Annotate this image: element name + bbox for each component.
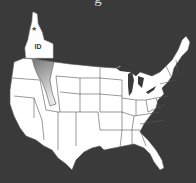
- idaho-shape[interactable]: [25, 12, 53, 58]
- map-stage: g: [0, 0, 196, 183]
- us-map: ★ ID: [0, 0, 196, 183]
- star-icon: ★: [31, 25, 37, 32]
- idaho-highlight[interactable]: ★ ID: [25, 12, 53, 58]
- state-label-id: ID: [35, 43, 42, 50]
